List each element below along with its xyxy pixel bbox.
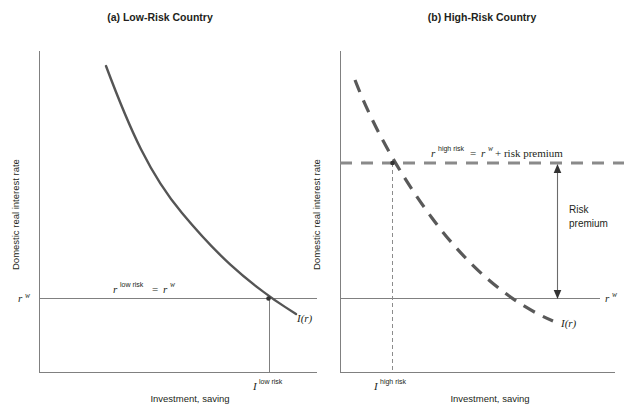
panel-b-annot-operator: =: [470, 147, 476, 159]
risk-premium-label: Risk premium: [569, 204, 608, 229]
panel-b-annot-term2-base: r: [481, 147, 486, 159]
panel-a-y-axis-label: Domestic real interest rate: [10, 159, 21, 270]
panel-b-y-axis-label: Domestic real interest rate: [311, 159, 322, 270]
risk-premium-label-line2: premium: [569, 218, 608, 229]
panel-a-rw-sup: w: [25, 291, 30, 300]
panel-a-title: (a) Low-Risk Country: [107, 11, 213, 23]
panel-b-investment-curve: [355, 80, 553, 321]
panel-a-annot-term1-sup: low risk: [120, 281, 144, 288]
panel-a-investment-curve: [106, 66, 296, 314]
risk-premium-arrow: [554, 164, 562, 299]
panel-b-rw-sup: w: [612, 290, 617, 299]
panel-b-annot-term1-sup: high risk: [438, 145, 465, 153]
panel-b-world-rate-label: r w: [605, 290, 617, 304]
economics-figure: (a) Low-Risk Country Domestic real inter…: [0, 0, 627, 414]
panel-b-quantity-base: I: [373, 380, 379, 392]
panel-a-curve-label: I(r): [296, 312, 313, 325]
panel-b-title: (b) High-Risk Country: [428, 11, 537, 23]
panel-a-annot-term2-sup: w: [170, 280, 175, 289]
panel-a-annot-term1-base: r: [113, 283, 118, 295]
panel-a-world-rate-tick-label: r w: [18, 291, 30, 304]
panel-b-equilibrium-point: [390, 161, 395, 166]
panel-b-curve-label: I(r): [560, 317, 577, 330]
panel-a-quantity-base: I: [252, 380, 258, 392]
panel-b-annot-tail: + risk premium: [495, 147, 563, 159]
panel-b-annot-term2-sup: w: [488, 144, 493, 153]
panel-b-rw-base: r: [605, 292, 610, 304]
panel-b-annot-term1-base: r: [431, 147, 436, 159]
panel-a-annot-operator: =: [152, 283, 158, 295]
panel-a-annot-term2-base: r: [163, 283, 168, 295]
panel-b-rate-annotation: r high risk = r w + risk premium: [431, 144, 563, 159]
risk-premium-arrow-head-down: [554, 290, 562, 299]
panel-low-risk: (a) Low-Risk Country Domestic real inter…: [10, 11, 317, 404]
panel-high-risk: (b) High-Risk Country Domestic real inte…: [311, 11, 624, 404]
panel-a-rate-annotation: r low risk = r w: [113, 280, 175, 295]
panel-a-equilibrium-point: [266, 296, 271, 301]
risk-premium-arrow-head-up: [554, 164, 562, 173]
panel-a-quantity-label: I low risk: [252, 378, 283, 392]
panel-b-quantity-label: I high risk: [373, 378, 407, 392]
panel-a-rw-base: r: [18, 292, 23, 304]
panel-a-x-axis-label: Investment, saving: [150, 393, 229, 404]
panel-b-quantity-sup: high risk: [380, 378, 407, 386]
panel-a-quantity-sup: low risk: [259, 378, 283, 385]
risk-premium-label-line1: Risk: [569, 204, 589, 215]
panel-b-x-axis-label: Investment, saving: [450, 393, 529, 404]
